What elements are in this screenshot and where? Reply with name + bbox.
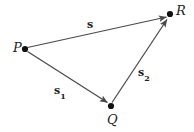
- vector-line-s2: [112, 20, 167, 103]
- vector-label-s1: s1: [54, 85, 66, 98]
- vector-label-s2-sub: 2: [144, 73, 150, 83]
- vector-label-s: s: [87, 19, 93, 32]
- point-dot-Q: [108, 103, 114, 109]
- point-label-Q: Q: [107, 113, 118, 126]
- vector-line-s1: [28, 52, 108, 103]
- vector-diagram-canvas: [0, 0, 194, 132]
- point-dot-R: [167, 11, 173, 17]
- vector-diagram-figure: P Q R s s1 s2: [0, 0, 194, 132]
- vector-line-s: [28, 17, 167, 48]
- point-label-R: R: [176, 4, 186, 17]
- point-dot-P: [22, 46, 28, 52]
- point-label-P: P: [13, 41, 22, 54]
- vector-label-s-main: s: [87, 18, 93, 31]
- vector-label-s2: s2: [138, 67, 150, 80]
- vector-label-s1-sub: 1: [60, 91, 66, 101]
